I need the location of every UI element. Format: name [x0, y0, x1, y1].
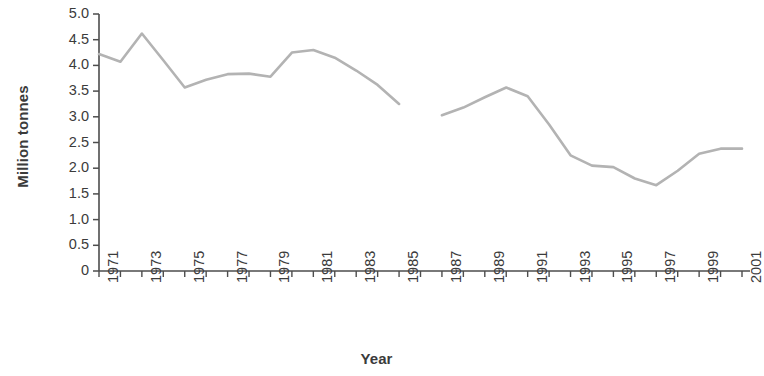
x-tick-label: 2001 [748, 251, 764, 283]
x-tick-label: 1975 [191, 251, 207, 283]
y-tick-label: 4.0 [29, 56, 89, 72]
y-tick-label: 1.5 [29, 185, 89, 201]
x-tick-label: 1979 [276, 251, 292, 283]
chart-axes [99, 14, 750, 271]
y-tick-label: 3.5 [29, 82, 89, 98]
x-tick-label: 1971 [105, 251, 121, 283]
y-tick-label: 3.0 [29, 108, 89, 124]
series-line-segment-1 [99, 34, 399, 104]
x-tick-label: 1977 [234, 251, 250, 283]
y-axis-title: Million tonnes [14, 47, 31, 227]
x-tick-label: 1987 [448, 251, 464, 283]
x-tick-label: 1999 [705, 251, 721, 283]
chart-tick-marks [93, 14, 742, 277]
x-tick-label: 1983 [362, 251, 378, 283]
x-tick-label: 1973 [148, 251, 164, 283]
x-tick-label: 1991 [534, 251, 550, 283]
x-tick-label: 1981 [319, 251, 335, 283]
y-tick-label: 4.5 [29, 31, 89, 47]
chart-series-lines [99, 34, 742, 186]
y-tick-label: 1.0 [29, 211, 89, 227]
x-tick-label: 1997 [662, 251, 678, 283]
x-tick-label: 1993 [577, 251, 593, 283]
y-tick-label: 0.5 [29, 236, 89, 252]
y-tick-label: 0 [29, 262, 89, 278]
x-tick-label: 1989 [491, 251, 507, 283]
x-tick-label: 1985 [405, 251, 421, 283]
y-tick-label: 2.5 [29, 134, 89, 150]
x-axis-title: Year [0, 350, 753, 367]
series-line-segment-2 [442, 88, 742, 186]
y-tick-label: 5.0 [29, 5, 89, 21]
x-tick-label: 1995 [619, 251, 635, 283]
y-tick-label: 2.0 [29, 159, 89, 175]
